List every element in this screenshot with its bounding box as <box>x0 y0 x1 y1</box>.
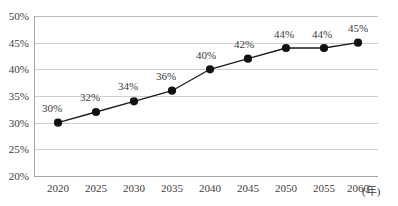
data-point-marker <box>54 119 62 127</box>
data-label-2030: 34% <box>118 80 138 92</box>
data-label-2025: 32% <box>80 91 100 103</box>
data-point-marker <box>320 44 328 52</box>
data-label-2020: 30% <box>42 102 62 114</box>
data-label-2060: 45% <box>348 22 368 34</box>
data-point-marker <box>244 55 252 63</box>
data-point-marker <box>168 87 176 95</box>
data-label-2055: 44% <box>312 28 332 40</box>
data-label-2045: 42% <box>234 38 254 50</box>
data-point-marker <box>92 108 100 116</box>
data-label-2035: 36% <box>156 70 176 82</box>
chart-container: 50% 45% 40% 35% 30% 25% 20% 2020 2025 20… <box>0 0 398 206</box>
data-point-marker <box>354 39 362 47</box>
data-point-marker <box>282 44 290 52</box>
data-point-marker <box>130 97 138 105</box>
data-label-2040: 40% <box>196 49 216 61</box>
data-label-2050: 44% <box>274 28 294 40</box>
data-point-marker <box>206 65 214 73</box>
